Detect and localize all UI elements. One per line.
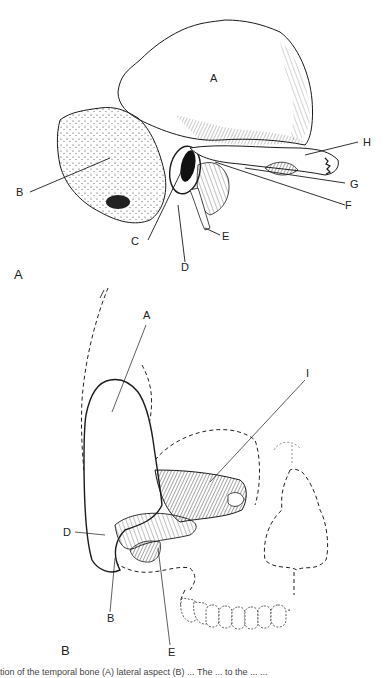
panel-a-label-h: H — [363, 137, 371, 148]
nasal-outline — [274, 442, 300, 465]
panel-b-label-a: A — [143, 310, 150, 321]
panel-a-label-d: D — [181, 262, 189, 273]
panel-a-label-b: B — [16, 187, 23, 198]
teeth-outline — [181, 598, 286, 629]
panel-b-label-d: D — [63, 527, 71, 538]
panel-a-label-g: G — [350, 179, 359, 190]
panel-a-label-f: F — [345, 200, 352, 211]
panel-a-label-c: C — [131, 236, 139, 247]
anatomical-figure: A B C D E F G H A A I D B E B tion of th… — [0, 0, 389, 678]
panel-a-label-a: A — [210, 73, 217, 84]
figure-caption: tion of the temporal bone (A) lateral as… — [0, 668, 389, 677]
panel-a-label-e: E — [222, 231, 229, 242]
panel-b-label-e: E — [168, 647, 175, 658]
panel-b-label-b: B — [107, 613, 114, 624]
panel-a-title: A — [14, 268, 23, 281]
panel-b-title: B — [61, 644, 70, 657]
panel-b-label-i: I — [306, 368, 309, 379]
panel-b-drawing — [0, 0, 389, 678]
